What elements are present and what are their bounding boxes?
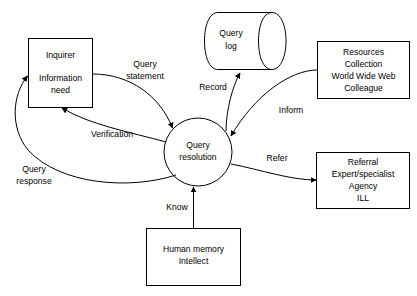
flow-refer[interactable]: Refer <box>231 153 316 180</box>
flow-know-label: Know <box>166 202 188 212</box>
node-resources-line4: Colleague <box>344 83 383 93</box>
node-query-log-line2: log <box>225 41 237 51</box>
node-resources-line3: World Wide Web <box>331 71 395 81</box>
flow-know[interactable]: Know <box>166 187 193 228</box>
node-resources-line2: Collection <box>345 59 383 69</box>
node-referral-line4: ILL <box>357 193 369 203</box>
flow-inform[interactable]: Inform <box>231 70 318 136</box>
flow-inform-label: Inform <box>279 105 303 115</box>
node-inquirer[interactable]: Inquirer Information need <box>29 39 93 108</box>
node-referral-line1: Referral <box>348 157 379 167</box>
node-query-resolution-line1: Query <box>186 140 210 150</box>
flow-query-statement[interactable]: Query statement <box>93 59 173 128</box>
node-human-memory-line1: Human memory <box>163 244 225 254</box>
node-human-memory[interactable]: Human memory Intellect <box>147 229 241 286</box>
diagram-canvas: Inquirer Information need Query log Reso… <box>0 0 417 296</box>
node-referral[interactable]: Referral Expert/specialist Agency ILL <box>317 153 410 209</box>
node-query-log-line1: Query <box>219 28 243 38</box>
flow-verification[interactable]: Verification <box>62 108 166 142</box>
flow-query-statement-line1: Query <box>133 59 157 69</box>
node-inquirer-line3: need <box>51 85 70 95</box>
node-inquirer-line1: Inquirer <box>46 50 75 60</box>
flow-record-label: Record <box>199 82 227 92</box>
node-resources[interactable]: Resources Collection World Wide Web Coll… <box>318 42 410 99</box>
node-human-memory-line2: Intellect <box>179 256 209 266</box>
node-inquirer-line2: Information <box>39 73 82 83</box>
node-referral-line2: Expert/specialist <box>332 169 395 179</box>
flow-verification-label: Verification <box>91 129 133 139</box>
dfd-svg: Inquirer Information need Query log Reso… <box>0 0 417 296</box>
node-query-resolution-line2: resolution <box>179 152 216 162</box>
flow-refer-label: Refer <box>266 153 287 163</box>
node-query-log[interactable]: Query log <box>205 13 287 70</box>
node-resources-line1: Resources <box>343 47 384 57</box>
node-referral-line3: Agency <box>349 181 378 191</box>
flow-query-statement-line2: statement <box>126 71 164 81</box>
flow-query-response-line2: response <box>16 176 52 186</box>
flow-query-response-line1: Query <box>22 164 46 174</box>
